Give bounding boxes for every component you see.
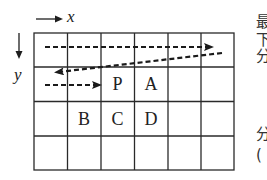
cell-label-a: A [135,67,168,101]
x-axis-label: x [67,8,75,25]
cell-label-c: C [101,102,134,136]
y-axis-arrow-icon [16,33,23,59]
side-text-fragment: 分 [256,49,267,64]
side-text-fragment: 下 [256,33,267,48]
side-text-fragment: 最 [256,15,267,30]
cell-label-d: D [135,102,168,136]
scan-order-diagram: x y P A B C D 最 下 分 分 ( [0,0,267,180]
cell-label-p: P [101,67,134,101]
side-text-fragment: 分 [256,127,267,142]
cell-label-b: B [68,102,101,136]
y-axis-label: y [14,66,22,83]
x-axis-arrow-icon [36,16,63,23]
side-text-fragment: ( [256,148,262,163]
